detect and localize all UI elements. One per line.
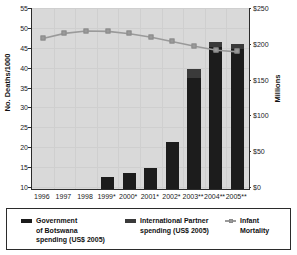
y-axis-left-tick-label: 40 [4, 64, 28, 71]
line-marker [105, 29, 110, 34]
y-axis-left-tick-label: 50 [4, 24, 28, 31]
x-axis-tick-label: 1998 [77, 193, 93, 200]
x-axis-tick-label: 2004** [204, 193, 225, 200]
y-axis-right-tick-label: $200 [253, 40, 279, 47]
x-axis-tick-label: 1996 [34, 193, 50, 200]
chart-legend: Government of Botswana spending (US$ 200… [6, 208, 291, 250]
chart-container: No. Deaths/1000 Millions 101520253035404… [0, 0, 297, 255]
line-marker [148, 35, 153, 40]
y-axis-left-tick-label: 15 [4, 164, 28, 171]
line-marker [170, 39, 175, 44]
legend-government-botswana[interactable]: Government of Botswana spending (US$ 200… [21, 216, 105, 245]
line-marker [40, 36, 45, 41]
legend-swatch-icon [21, 219, 32, 223]
y-axis-right-tick-label: $0 [253, 184, 279, 191]
legend-label: Government of Botswana spending (US$ 200… [36, 216, 105, 245]
y-axis-left-tick-label: 45 [4, 44, 28, 51]
plot-wrapper: No. Deaths/1000 Millions 101520253035404… [0, 0, 297, 200]
y-axis-right-title: Millions [273, 59, 282, 119]
y-axis-right-tick-label: $50 [253, 148, 279, 155]
plot-area [31, 8, 250, 190]
legend-international-partner[interactable]: International Partner spending (US$ 2005… [125, 216, 209, 235]
legend-infant-mortality[interactable]: Infant Mortality [225, 216, 269, 235]
x-axis-tick-label: 2003** [182, 193, 203, 200]
y-axis-left-tick-label: 30 [4, 104, 28, 111]
line-marker [235, 49, 240, 54]
y-axis-right-tick-label: $100 [253, 112, 279, 119]
legend-label: Infant Mortality [240, 216, 269, 235]
line-marker [84, 28, 89, 33]
x-axis-tick-label: 2002* [162, 193, 180, 200]
legend-label: International Partner spending (US$ 2005… [140, 216, 209, 235]
legend-swatch-icon [125, 219, 136, 223]
x-axis-tick-label: 2000* [119, 193, 137, 200]
x-axis-tick-label: 1999* [97, 193, 115, 200]
y-axis-left-tick-label: 20 [4, 144, 28, 151]
line-marker [213, 47, 218, 52]
line-marker [192, 43, 197, 48]
line-marker [62, 31, 67, 36]
legend-swatch-icon [225, 220, 236, 226]
y-axis-right-tick-label: $250 [253, 5, 279, 12]
y-axis-left-title: No. Deaths/1000 [3, 40, 12, 126]
y-axis-right-tick-label: $150 [253, 76, 279, 83]
y-axis-left-tick-label: 25 [4, 124, 28, 131]
x-axis-tick-label: 1997 [56, 193, 72, 200]
y-axis-left-tick-label: 35 [4, 84, 28, 91]
line-marker [127, 31, 132, 36]
y-axis-left-tick-label: 55 [4, 5, 28, 12]
x-axis-tick-label: 2001* [141, 193, 159, 200]
y-axis-left-tick-label: 10 [4, 184, 28, 191]
x-axis-tick-label: 2005** [226, 193, 247, 200]
